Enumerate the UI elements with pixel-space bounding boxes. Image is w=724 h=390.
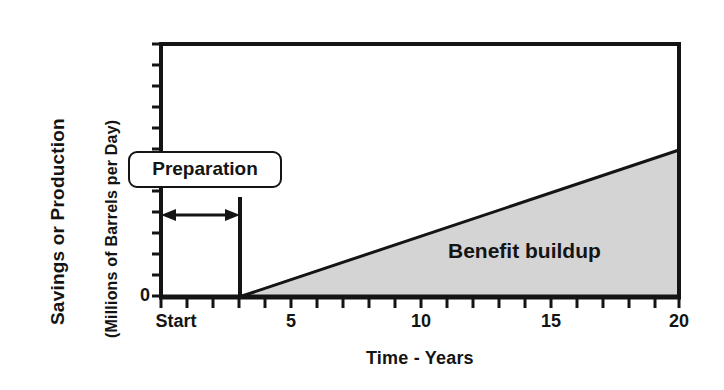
x-tick-label-start: Start (155, 311, 196, 332)
preparation-callout-label: Preparation (128, 151, 282, 188)
x-tick-label-15: 15 (541, 311, 561, 332)
y-axis-title-line1: Savings or Production (47, 118, 69, 325)
x-tick-label-5: 5 (286, 311, 296, 332)
x-axis-title: Time - Years (366, 348, 474, 369)
preparation-span-arrow (161, 209, 240, 221)
y-axis-title-line2: (Millions of Barrels per Day) (103, 120, 121, 338)
benefit-buildup-label: Benefit buildup (448, 239, 601, 263)
y-tick-label-0: 0 (126, 285, 150, 306)
chart-figure: Savings or Production (Millions of Barre… (0, 0, 724, 390)
x-tick-label-10: 10 (411, 311, 431, 332)
x-tick-label-20: 20 (669, 311, 689, 332)
